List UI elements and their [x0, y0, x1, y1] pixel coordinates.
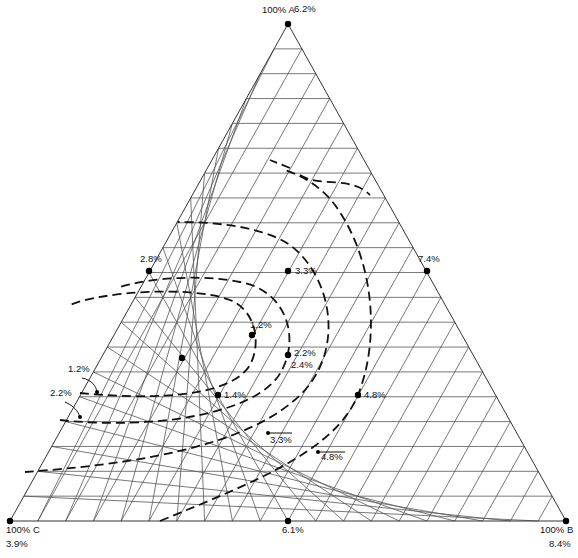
- arrowhead-icon: [316, 450, 320, 454]
- contour-label: 3.3%: [270, 434, 292, 445]
- point-label: 7.4%: [418, 253, 440, 264]
- data-point: [179, 355, 185, 361]
- grid-line: [316, 297, 441, 521]
- data-point: [285, 21, 291, 27]
- grid-line: [483, 446, 525, 521]
- data-point: [424, 268, 430, 274]
- data-point: [249, 332, 255, 338]
- data-points: 6.2%2.8%3.3%7.4%1.2%2.2%1.4%4.8%6.1%100%…: [6, 3, 573, 535]
- point-label: 4.8%: [364, 389, 386, 400]
- data-point: [285, 268, 291, 274]
- axis-label: 3.9%: [6, 538, 28, 549]
- contour-label: 2.2%: [50, 387, 72, 398]
- grid-line: [371, 347, 468, 521]
- grid-line: [93, 99, 329, 521]
- point-label: 100% B: [540, 524, 573, 535]
- axis-label: 8.4%: [549, 538, 571, 549]
- ternary-grid: [24, 49, 552, 521]
- point-label: 1.4%: [224, 389, 246, 400]
- grid-line: [538, 496, 552, 521]
- axis-label: 2.4%: [291, 359, 313, 370]
- grid-line: [24, 496, 538, 521]
- point-label: 2.2%: [294, 347, 316, 358]
- grid-line: [38, 49, 302, 521]
- data-point: [146, 268, 152, 274]
- contour-label: 4.8%: [321, 451, 343, 462]
- point-label: 1.2%: [250, 319, 272, 330]
- data-point: [285, 352, 291, 358]
- contour-lines: [25, 160, 371, 521]
- ternary-chart: 1.2%2.2%3.3%4.8% 6.2%2.8%3.3%7.4%1.2%2.2…: [0, 0, 578, 558]
- point-label: 6.2%: [294, 3, 316, 14]
- point-label: 3.3%: [295, 265, 317, 276]
- contour-label: 1.2%: [68, 363, 90, 374]
- axis-label: 100% A: [262, 4, 295, 15]
- contour-2-2pct: [60, 278, 289, 423]
- grid-line: [427, 397, 497, 521]
- data-point: [355, 392, 361, 398]
- point-label: 100% C: [6, 524, 40, 535]
- arrowhead-icon: [78, 415, 82, 419]
- grid-line: [52, 446, 483, 521]
- arrow-icon: [82, 378, 97, 392]
- arrowhead-icon: [95, 390, 99, 394]
- point-label: 6.1%: [282, 524, 304, 535]
- point-label: 2.8%: [140, 253, 162, 264]
- data-point: [215, 392, 221, 398]
